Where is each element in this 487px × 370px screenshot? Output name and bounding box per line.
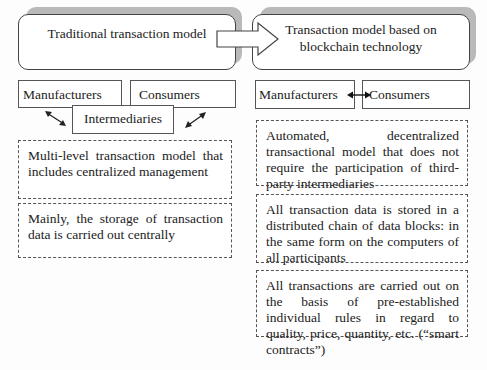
- left-feature-text-1: Multi-level transaction model that in­cl…: [28, 148, 223, 179]
- left-consumers-label: Consumers: [139, 87, 200, 102]
- blockchain-model-title: Transaction model based on blockchain te…: [285, 22, 436, 54]
- left-consumers-box: Consumers: [130, 80, 236, 108]
- left-feature-box-1: Multi-level transaction model that in­cl…: [18, 140, 232, 199]
- traditional-model-title-box: Traditional transaction model: [18, 14, 236, 70]
- block-arrow-right-icon: [216, 22, 280, 58]
- right-manufacturers-label: Manufacturers: [259, 87, 338, 102]
- intermediaries-box: Intermediaries: [72, 105, 174, 134]
- left-manufacturers-box: Manufacturers: [18, 80, 122, 108]
- right-consumers-label: Consumers: [369, 87, 430, 102]
- traditional-model-title: Traditional transaction model: [47, 26, 206, 41]
- intermediaries-label: Intermediaries: [84, 111, 162, 126]
- double-arrow-right-diagonal-icon: [184, 111, 208, 129]
- right-feature-box-3: All transactions are carried out on the …: [256, 270, 468, 337]
- left-manufacturers-label: Manufacturers: [23, 87, 102, 102]
- right-feature-text-2: All transaction data is stored in a dis­…: [266, 202, 459, 265]
- right-manufacturers-box: Manufacturers: [255, 80, 355, 109]
- right-feature-box-2: All transaction data is stored in a dis­…: [256, 194, 468, 263]
- double-arrow-left-diagonal-icon: [44, 110, 68, 128]
- double-arrow-horizontal-icon: [347, 90, 371, 100]
- right-consumers-box: Consumers: [362, 80, 470, 109]
- right-feature-text-1: Automated, decentralized transactional m…: [266, 128, 459, 191]
- right-feature-box-1: Automated, decentralized transactional m…: [256, 120, 468, 186]
- right-feature-text-3: All transactions are carried out on the …: [266, 278, 459, 357]
- left-feature-box-2: Mainly, the storage of transaction data …: [18, 203, 232, 258]
- left-feature-text-2: Mainly, the storage of transaction data …: [28, 211, 223, 242]
- blockchain-model-title-box: Transaction model based on blockchain te…: [252, 14, 470, 70]
